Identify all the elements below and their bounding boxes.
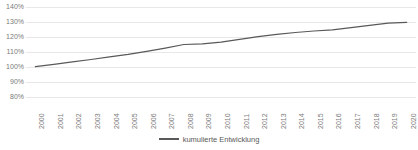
x-tick-label: 2016 [335,99,342,129]
gridline [26,97,416,98]
y-tick-label: 80% [0,93,24,100]
x-tick-label: 2017 [354,99,361,129]
x-tick-label: 2019 [391,99,398,129]
y-tick-label: 140% [0,3,24,10]
x-tick-label: 2015 [317,99,324,129]
x-tick-label: 2014 [298,99,305,129]
plot-area [26,7,416,97]
x-tick-label: 2003 [94,99,101,129]
x-tick-label: 2012 [261,99,268,129]
y-tick-label: 100% [0,63,24,70]
y-tick-label: 120% [0,33,24,40]
x-tick-label: 2007 [168,99,175,129]
x-tick-label: 2011 [243,99,250,129]
series-line-layer [26,7,416,97]
x-tick-label: 2004 [113,99,120,129]
x-axis: 2000200120022003200420052006200720082009… [26,99,416,129]
legend-label: kumulierte Entwicklung [183,135,260,144]
y-tick-label: 130% [0,18,24,25]
x-tick-label: 2013 [280,99,287,129]
x-tick-label: 2001 [57,99,64,129]
x-tick-label: 2006 [150,99,157,129]
x-tick-label: 2010 [224,99,231,129]
y-tick-label: 110% [0,48,24,55]
x-tick-label: 2000 [38,99,45,129]
chart-legend: kumulierte Entwicklung [0,132,418,146]
x-tick-label: 2002 [75,99,82,129]
y-axis: 140%130%120%110%100%90%80% [0,0,24,97]
x-tick-label: 2005 [131,99,138,129]
line-chart: 140%130%120%110%100%90%80% 2000200120022… [0,0,418,150]
y-tick-label: 90% [0,78,24,85]
series-line-kumulierte-entwicklung [35,22,406,66]
x-tick-label: 2018 [373,99,380,129]
x-tick-label: 2008 [187,99,194,129]
x-tick-label: 2009 [205,99,212,129]
legend-line-swatch [159,138,179,140]
x-tick-label: 2020 [410,99,417,129]
